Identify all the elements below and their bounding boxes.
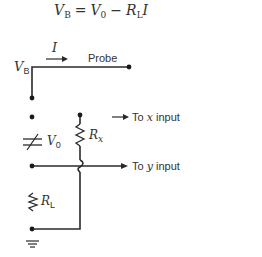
x-arrowhead xyxy=(123,114,129,120)
probe-label: Probe xyxy=(88,52,117,64)
rl-label: RL xyxy=(40,194,55,210)
equation: VB=V0−RLI xyxy=(54,2,149,20)
probe-wire xyxy=(32,67,129,98)
rx-label: Rx xyxy=(88,128,103,144)
battery-bottom-node xyxy=(30,164,35,169)
rl-resistor xyxy=(29,193,37,211)
current-label: I xyxy=(51,40,58,55)
battery-top-node xyxy=(30,115,35,120)
rl-bottom-node xyxy=(30,227,35,232)
to-y-input-label: To y input xyxy=(132,160,180,173)
rx-resistor xyxy=(76,124,84,146)
v0-label: V0 xyxy=(47,134,61,150)
y-arrowhead xyxy=(121,163,128,169)
variable-slash xyxy=(27,134,38,150)
circuit-diagram: VB=V0−RLI xyxy=(0,0,262,257)
rx-return-wire xyxy=(32,172,80,229)
vb-label: VB xyxy=(14,59,29,76)
vb-bottom-node xyxy=(30,96,35,101)
probe-node xyxy=(127,65,132,70)
current-arrowhead xyxy=(62,56,68,62)
rx-top-node xyxy=(78,113,83,118)
to-x-input-label: To x input xyxy=(132,111,180,124)
